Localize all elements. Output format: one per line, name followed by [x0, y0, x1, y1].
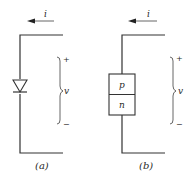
- voltage-label: v: [64, 86, 69, 96]
- minus-sign: −: [176, 120, 183, 129]
- current-label: i: [44, 9, 47, 19]
- panel-b: i p n + v − (b): [109, 9, 183, 171]
- diode-diagram: i + v − (a) i p n + v −: [0, 0, 191, 182]
- panel-a: i + v − (a): [12, 9, 70, 171]
- current-arrow-icon: [27, 19, 54, 24]
- n-region-label: n: [119, 100, 125, 110]
- caption-b: (b): [139, 160, 153, 171]
- plus-sign: +: [176, 54, 183, 63]
- minus-sign: −: [63, 120, 70, 129]
- voltage-brace-icon: [57, 57, 63, 124]
- voltage-label: v: [178, 86, 183, 96]
- current-arrow-icon: [128, 19, 157, 24]
- plus-sign: +: [63, 55, 70, 64]
- caption-a: (a): [35, 160, 49, 171]
- diode-icon: [12, 79, 29, 94]
- p-region-label: p: [119, 80, 125, 90]
- voltage-brace-icon: [170, 57, 176, 124]
- current-label: i: [147, 9, 150, 19]
